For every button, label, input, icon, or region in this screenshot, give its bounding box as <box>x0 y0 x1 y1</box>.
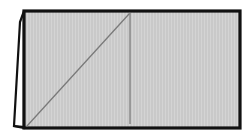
folded-panel-diagram <box>0 0 249 137</box>
figure-canvas <box>0 0 249 137</box>
main-panel-shape <box>24 11 240 128</box>
